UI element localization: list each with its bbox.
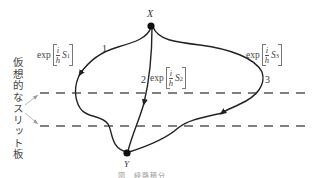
bracket: i h S3 [262, 44, 282, 66]
exp-prefix: exp [246, 50, 260, 60]
phase-factor-2: exp i h S2 [150, 67, 186, 89]
fraction: i h [56, 46, 60, 65]
path-2-tail [128, 103, 144, 151]
figure-caption: 図 経路積分 [118, 170, 166, 178]
bracket: i h S2 [166, 67, 186, 89]
pointer-upper [25, 95, 38, 105]
path-1 [80, 27, 151, 74]
exp-prefix: exp [37, 50, 51, 60]
bracket: i h S1 [53, 44, 73, 66]
path-1-tail [76, 74, 128, 152]
slit-plates-label: 仮想的なスリット板 [10, 57, 25, 161]
path-3-tail [129, 113, 222, 152]
path-3-number: 3 [265, 75, 270, 85]
path-2-number: 2 [141, 75, 146, 85]
start-point-label: X [147, 9, 153, 19]
path-1-number: 1 [102, 44, 107, 54]
fraction: i h [265, 46, 269, 65]
exp-prefix: exp [150, 73, 164, 83]
phase-factor-1: exp i h S1 [37, 44, 73, 66]
fraction: i h [169, 69, 173, 88]
path-2 [144, 27, 152, 103]
start-point-x [147, 22, 154, 29]
end-point-label: Y [124, 160, 129, 169]
pointer-lower [25, 113, 38, 124]
end-point-y [123, 149, 130, 156]
phase-factor-3: exp i h S3 [246, 44, 282, 66]
diagram-canvas [0, 0, 321, 178]
